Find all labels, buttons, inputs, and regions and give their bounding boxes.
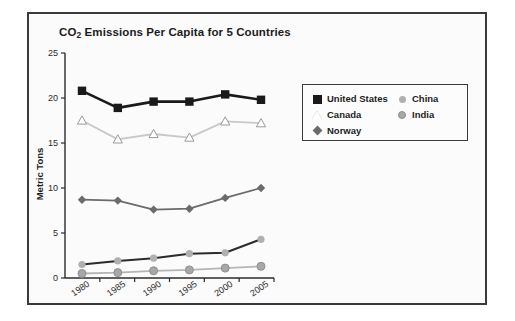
chart-plot-area: 0510152025 198019851990199520002005 Metr… [29,14,489,307]
series-norway [78,184,265,214]
filled-diamond-icon [149,205,157,213]
legend-item-label: China [412,93,438,104]
filled-square-icon [149,97,157,105]
x-tick-label: 2005 [248,279,270,299]
series-united-states [78,87,265,113]
y-axis-title: Metric Tons [34,148,45,201]
legend-item-label: India [412,109,434,120]
legend-item-label: Norway [327,125,361,136]
small-filled-circle-icon [257,236,264,243]
filled-diamond-icon [78,196,86,204]
filled-square-icon [114,104,122,112]
filled-circle-icon [221,264,229,272]
data-series-group [77,87,265,278]
series-india [78,262,265,277]
series-canada [77,116,265,143]
filled-diamond-icon [311,124,325,138]
legend-item-united-states[interactable]: United States [311,91,388,106]
legend-item-norway[interactable]: Norway [311,123,388,138]
filled-diamond-icon [185,205,193,213]
small-filled-circle-icon [222,249,229,256]
filled-circle-icon [257,262,265,270]
x-tick-label: 2000 [212,279,234,299]
small-filled-circle-icon [78,261,85,268]
filled-circle-icon [396,108,410,122]
filled-circle-icon [150,267,158,275]
open-triangle-icon [77,116,86,124]
filled-square-icon [221,90,229,98]
legend-item-china[interactable]: China [396,91,438,106]
filled-diamond-icon [221,194,229,202]
filled-square-icon [78,87,86,95]
small-filled-circle-icon [396,92,410,106]
series-china [78,236,264,268]
small-filled-circle-icon [150,255,157,262]
filled-diamond-icon [257,184,265,192]
chart-legend: United StatesCanadaNorway ChinaIndia [302,84,468,141]
y-tick-label: 15 [48,138,58,148]
small-filled-circle-icon [186,250,193,257]
y-tick-label: 10 [48,183,58,193]
filled-square-icon [311,92,325,106]
x-tick-label: 1985 [105,279,127,299]
legend-item-india[interactable]: India [396,107,438,122]
filled-square-icon [185,97,193,105]
y-axis: 0510152025 [48,48,65,283]
legend-column-right: ChinaIndia [396,91,438,123]
small-filled-circle-icon [114,257,121,264]
filled-square-icon [257,96,265,104]
filled-diamond-icon [114,196,122,204]
chart-figure: CO2 Emissions Per Capita for 5 Countries… [27,12,487,305]
x-tick-label: 1980 [69,279,91,299]
y-tick-label: 25 [48,48,58,58]
legend-column-left: United StatesCanadaNorway [311,91,388,139]
legend-item-label: United States [327,93,388,104]
filled-circle-icon [78,270,86,278]
open-triangle-icon [311,108,325,122]
x-axis: 198019851990199520002005 [65,278,274,298]
legend-item-canada[interactable]: Canada [311,107,388,122]
y-tick-label: 0 [53,273,58,283]
legend-item-label: Canada [327,109,361,120]
x-tick-label: 1995 [177,279,199,299]
filled-circle-icon [185,266,193,274]
y-tick-label: 20 [48,93,58,103]
y-tick-label: 5 [53,228,58,238]
x-tick-label: 1990 [141,279,163,299]
filled-circle-icon [114,269,122,277]
